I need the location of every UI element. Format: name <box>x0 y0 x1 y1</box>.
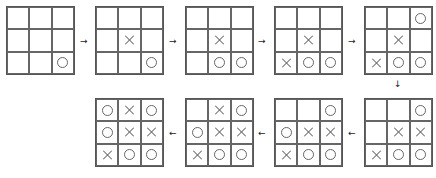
board-cell <box>141 29 163 51</box>
board-cell <box>118 99 140 121</box>
board-cell <box>186 52 208 74</box>
x-mark-icon <box>303 35 313 45</box>
board-cell <box>410 144 432 166</box>
board-cell <box>275 29 297 51</box>
board-8 <box>185 98 254 167</box>
board-cell <box>96 99 118 121</box>
board-cell <box>186 144 208 166</box>
board-cell <box>231 52 253 74</box>
board-cell <box>231 144 253 166</box>
board-cell <box>297 121 319 143</box>
board-cell <box>7 29 29 51</box>
board-cell <box>118 7 140 29</box>
arrow-left-icon: ← <box>348 129 356 138</box>
board-3 <box>185 6 254 75</box>
board-cell <box>365 52 387 74</box>
board-cell <box>387 99 409 121</box>
board-cell <box>7 7 29 29</box>
arrow-left-icon: ← <box>258 129 266 138</box>
board-5 <box>364 6 433 75</box>
arrow-right-icon: → <box>258 37 266 46</box>
board-cell <box>275 144 297 166</box>
board-cell <box>387 52 409 74</box>
x-mark-icon <box>124 35 134 45</box>
board-cell <box>320 99 342 121</box>
o-mark-icon <box>393 57 404 68</box>
o-mark-icon <box>415 105 426 116</box>
board-cell <box>231 121 253 143</box>
o-mark-icon <box>393 149 404 160</box>
x-mark-icon <box>416 127 426 137</box>
board-cell <box>96 121 118 143</box>
board-cell <box>365 121 387 143</box>
x-mark-icon <box>281 150 291 160</box>
board-cell <box>275 52 297 74</box>
board-cell <box>96 29 118 51</box>
board-cell <box>186 99 208 121</box>
board-cell <box>29 52 51 74</box>
o-mark-icon <box>303 149 314 160</box>
board-cell <box>297 52 319 74</box>
board-cell <box>365 7 387 29</box>
o-mark-icon <box>214 149 225 160</box>
o-mark-icon <box>236 149 247 160</box>
x-mark-icon <box>371 58 381 68</box>
board-4 <box>274 6 343 75</box>
o-mark-icon <box>325 57 336 68</box>
x-mark-icon <box>214 35 224 45</box>
o-mark-icon <box>102 127 113 138</box>
board-cell <box>320 29 342 51</box>
board-cell <box>141 7 163 29</box>
board-cell <box>231 7 253 29</box>
board-cell <box>320 7 342 29</box>
x-mark-icon <box>192 150 202 160</box>
board-cell <box>208 99 230 121</box>
board-cell <box>410 52 432 74</box>
board-cell <box>208 7 230 29</box>
board-cell <box>231 29 253 51</box>
board-cell <box>96 52 118 74</box>
board-7 <box>274 98 343 167</box>
board-9 <box>95 98 164 167</box>
o-mark-icon <box>415 13 426 24</box>
board-cell <box>29 29 51 51</box>
board-cell <box>410 99 432 121</box>
o-mark-icon <box>236 57 247 68</box>
board-cell <box>208 144 230 166</box>
board-cell <box>118 52 140 74</box>
board-cell <box>186 7 208 29</box>
arrow-right-icon: → <box>348 37 356 46</box>
board-cell <box>29 7 51 29</box>
o-mark-icon <box>146 57 157 68</box>
board-cell <box>387 121 409 143</box>
board-cell <box>297 99 319 121</box>
board-cell <box>141 52 163 74</box>
board-cell <box>275 99 297 121</box>
board-cell <box>96 144 118 166</box>
board-cell <box>387 7 409 29</box>
board-cell <box>186 29 208 51</box>
o-mark-icon <box>325 105 336 116</box>
board-cell <box>410 121 432 143</box>
x-mark-icon <box>102 150 112 160</box>
board-cell <box>141 99 163 121</box>
x-mark-icon <box>393 127 403 137</box>
board-cell <box>141 121 163 143</box>
arrow-right-icon: → <box>80 37 88 46</box>
o-mark-icon <box>102 105 113 116</box>
x-mark-icon <box>124 105 134 115</box>
o-mark-icon <box>146 149 157 160</box>
board-cell <box>118 29 140 51</box>
board-cell <box>410 7 432 29</box>
x-mark-icon <box>371 150 381 160</box>
board-2 <box>95 6 164 75</box>
x-mark-icon <box>147 127 157 137</box>
x-mark-icon <box>237 127 247 137</box>
o-mark-icon <box>57 57 68 68</box>
board-cell <box>275 121 297 143</box>
board-cell <box>320 144 342 166</box>
o-mark-icon <box>303 57 314 68</box>
board-cell <box>96 7 118 29</box>
board-cell <box>410 29 432 51</box>
x-mark-icon <box>326 127 336 137</box>
